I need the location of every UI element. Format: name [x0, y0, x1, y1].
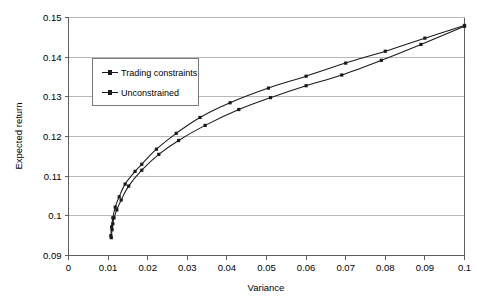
data-point-trading-constraints [140, 169, 143, 172]
x-tick-label: 0.01 [99, 262, 118, 273]
data-point-trading-constraints [204, 124, 207, 127]
x-tick-label: 0.1 [458, 262, 471, 273]
data-point-unconstrained [118, 195, 121, 198]
y-tick-label: 0.15 [43, 12, 62, 23]
data-point-unconstrained [140, 163, 143, 166]
data-point-unconstrained [423, 37, 426, 40]
data-point-unconstrained [124, 183, 127, 186]
x-tick-label: 0.04 [218, 262, 237, 273]
data-point-trading-constraints [120, 198, 123, 201]
data-point-unconstrained [463, 24, 466, 27]
y-tick-label: 0.11 [44, 171, 62, 182]
data-point-unconstrained [384, 50, 387, 53]
data-point-unconstrained [109, 234, 112, 237]
y-tick-label: 0.13 [43, 91, 62, 102]
y-tick-label: 0.1 [48, 210, 61, 221]
legend-label-unconstrained: Unconstrained [121, 88, 179, 98]
data-point-trading-constraints [127, 184, 130, 187]
x-tick-label: 0.02 [138, 262, 157, 273]
data-point-unconstrained [110, 225, 113, 228]
data-point-trading-constraints [419, 43, 422, 46]
y-tick-label: 0.14 [43, 52, 62, 63]
data-point-unconstrained [198, 116, 201, 119]
data-point-trading-constraints [115, 208, 118, 211]
x-axis-title: Variance [248, 282, 285, 293]
data-point-trading-constraints [340, 73, 343, 76]
series-line-trading-constraints [111, 26, 464, 237]
data-point-unconstrained [305, 75, 308, 78]
chart-figure: 0.090.10.110.120.130.140.15 00.010.020.0… [0, 0, 477, 308]
data-point-trading-constraints [269, 96, 272, 99]
x-tick-label: 0.05 [257, 262, 276, 273]
y-tick-label: 0.09 [43, 250, 62, 261]
data-point-unconstrained [111, 216, 114, 219]
x-tick-label: 0.09 [416, 262, 435, 273]
data-point-unconstrained [267, 87, 270, 90]
y-tick-labels: 0.090.10.110.120.130.140.15 [43, 12, 69, 261]
efficient-frontier-chart: 0.090.10.110.120.130.140.15 00.010.020.0… [0, 0, 477, 308]
data-point-trading-constraints [157, 153, 160, 156]
x-tick-label: 0.07 [336, 262, 355, 273]
x-tick-label: 0 [66, 262, 71, 273]
data-point-unconstrained [133, 170, 136, 173]
x-tick-label: 0.08 [376, 262, 395, 273]
legend: Trading constraints Unconstrained [93, 59, 199, 106]
y-tick-label: 0.12 [43, 131, 62, 142]
y-axis-title: Expected return [13, 102, 24, 169]
data-point-unconstrained [155, 148, 158, 151]
x-tick-labels: 00.010.020.030.040.050.060.070.080.090.1 [66, 256, 471, 273]
data-point-unconstrained [228, 101, 231, 104]
legend-marker-trading-constraints [108, 70, 112, 75]
legend-marker-unconstrained [108, 90, 112, 95]
data-point-trading-constraints [237, 108, 240, 111]
series-unconstrained [109, 24, 466, 237]
data-point-trading-constraints [177, 139, 180, 142]
legend-box [93, 59, 199, 106]
data-series [109, 24, 466, 239]
data-point-trading-constraints [305, 84, 308, 87]
x-tick-label: 0.03 [178, 262, 197, 273]
data-point-trading-constraints [380, 59, 383, 62]
data-point-unconstrained [344, 62, 347, 65]
legend-label-trading-constraints: Trading constraints [121, 68, 198, 78]
x-tick-label: 0.06 [297, 262, 316, 273]
data-point-unconstrained [175, 132, 178, 135]
data-point-unconstrained [114, 206, 117, 209]
